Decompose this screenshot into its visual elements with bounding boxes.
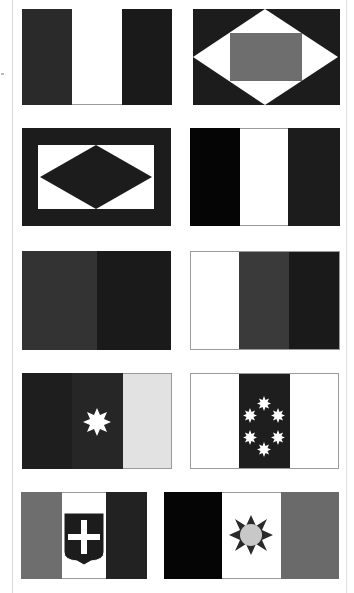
flag-4 [190, 128, 340, 226]
bicolor-flag-image [22, 251, 171, 350]
flag-3 [22, 128, 171, 226]
flag-6 [190, 251, 340, 350]
tricolor-flag-image [22, 9, 172, 105]
tricolor-flag-image [190, 128, 340, 226]
flag-9 [21, 492, 147, 579]
shield-tricolor-flag-image [21, 492, 147, 579]
flag-5 [22, 251, 171, 350]
six-stars-flag-image [190, 373, 339, 469]
sun-tricolor-flag-image [164, 492, 339, 579]
eight-pointed-star-icon [83, 408, 111, 436]
margin-tick-mark [1, 73, 4, 75]
gray-rectangle-icon [230, 33, 302, 81]
star-tricolor-flag-image [22, 373, 172, 469]
right-margin-rule [346, 0, 347, 593]
tricolor-flag-image [190, 251, 340, 350]
flag-7 [22, 373, 172, 469]
left-margin-rule [12, 0, 13, 593]
flag-1 [22, 9, 172, 105]
flag-8 [190, 373, 339, 469]
shield-cross-icon [64, 513, 104, 565]
flag-10 [164, 492, 339, 579]
bordered-diamond-flag-image [22, 128, 171, 226]
diamond-flag-image [193, 9, 340, 105]
flag-2 [193, 9, 340, 105]
